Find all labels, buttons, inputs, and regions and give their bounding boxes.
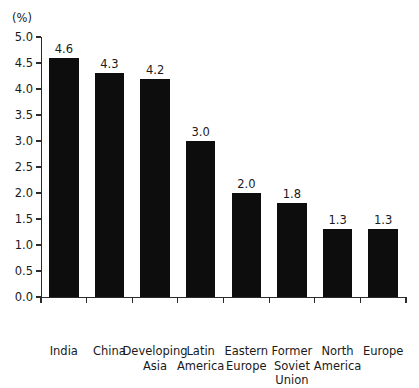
plot-area: 0.00.51.01.52.02.53.03.54.04.55.0 4.64.3… (41, 37, 406, 297)
y-tick-label: 1.5 (15, 212, 33, 226)
y-tick (36, 140, 41, 141)
y-tick-label: 0.5 (15, 264, 33, 278)
y-axis-unit-label: (%) (12, 11, 32, 25)
x-tick (177, 297, 178, 303)
bar-value-label: 1.3 (374, 213, 392, 227)
x-tick (360, 297, 361, 303)
x-category-label: Europe (340, 344, 419, 359)
bar (49, 58, 79, 297)
y-axis-line (41, 37, 42, 297)
y-tick (36, 88, 41, 89)
x-tick (132, 297, 133, 303)
x-tick (223, 297, 224, 303)
y-tick (36, 62, 41, 63)
y-tick (36, 192, 41, 193)
y-tick-label: 2.5 (15, 160, 33, 174)
bar-value-label: 4.3 (100, 57, 118, 71)
bar-value-label: 3.0 (192, 125, 210, 139)
y-tick-label: 5.0 (15, 30, 33, 44)
y-tick-label: 4.5 (15, 56, 33, 70)
bar-value-label: 1.3 (328, 213, 346, 227)
y-tick-label: 3.0 (15, 134, 33, 148)
x-tick (40, 297, 41, 303)
bar (232, 193, 262, 297)
x-tick (405, 297, 406, 303)
bar (368, 229, 398, 297)
y-tick (36, 218, 41, 219)
bar-value-label: 4.6 (55, 42, 73, 56)
bar (323, 229, 353, 297)
y-tick-label: 3.5 (15, 108, 33, 122)
bar (95, 73, 125, 297)
bar-value-label: 2.0 (237, 177, 255, 191)
bar (140, 79, 170, 297)
y-tick-label: 1.0 (15, 238, 33, 252)
y-tick (36, 114, 41, 115)
y-tick-label: 2.0 (15, 186, 33, 200)
bar-value-label: 4.2 (146, 63, 164, 77)
bar (186, 141, 216, 297)
y-tick (36, 244, 41, 245)
clipped-header-sliver (0, 0, 419, 7)
x-tick (86, 297, 87, 303)
bar (277, 203, 307, 297)
y-tick-label: 4.0 (15, 82, 33, 96)
y-tick (36, 166, 41, 167)
x-tick (314, 297, 315, 303)
y-tick-label: 0.0 (15, 290, 33, 304)
bar-value-label: 1.8 (283, 187, 301, 201)
x-tick (269, 297, 270, 303)
y-tick (36, 270, 41, 271)
y-tick (36, 36, 41, 37)
